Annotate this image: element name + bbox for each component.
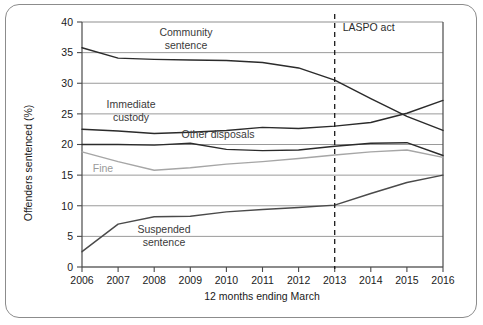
x-tick-label-2014: 2014 [359,274,383,286]
x-axis-title: 12 months ending March [204,290,320,302]
x-tick-label-2006: 2006 [70,274,94,286]
y-axis-title: Offenders sentenced (%) [22,105,34,222]
x-tick-label-2007: 2007 [106,274,130,286]
series-label-immediate-custody-line2: custody [113,111,150,123]
series-paths [82,48,443,252]
x-tick-label-2008: 2008 [143,274,167,286]
x-tick-label-2010: 2010 [215,274,239,286]
y-tick-label-35: 35 [61,46,73,58]
x-tick-label-2015: 2015 [395,274,419,286]
series-label-suspended-sentence: Suspended [137,223,190,235]
series-label-community-sentence: Community [159,26,213,38]
y-tick-label-25: 25 [61,108,73,120]
line-chart: 0510152025303540 20062007200820092010201… [0,0,483,325]
y-tick-label-40: 40 [61,16,73,28]
series-label-immediate-custody: Immediate [106,98,155,110]
series-label-fine: Fine [93,162,114,174]
x-tick-label-2009: 2009 [179,274,203,286]
series-line-suspended-sentence [82,175,443,252]
x-tick-label-2016: 2016 [431,274,455,286]
x-axis-tick-labels: 2006200720082009201020112012201320142015… [70,274,455,286]
y-tick-label-30: 30 [61,77,73,89]
series-label-other-disposals: Other disposals [182,128,255,140]
laspo-act-label: LASPO act [343,21,395,33]
series-label-community-sentence-line2: sentence [165,39,208,51]
x-tick-label-2011: 2011 [251,274,274,286]
x-tick-label-2012: 2012 [287,274,311,286]
y-tick-label-10: 10 [61,200,73,212]
y-tick-label-20: 20 [61,138,73,150]
series-line-fine [82,150,443,170]
x-tick-label-2013: 2013 [323,274,347,286]
y-tick-label-5: 5 [67,230,73,242]
series-label-suspended-sentence-line2: sentence [143,236,186,248]
axis-ticks [77,22,443,272]
figure-root: 0510152025303540 20062007200820092010201… [0,0,483,325]
y-tick-label-0: 0 [67,261,73,273]
y-tick-label-15: 15 [61,169,73,181]
y-axis-tick-labels: 0510152025303540 [61,16,73,273]
